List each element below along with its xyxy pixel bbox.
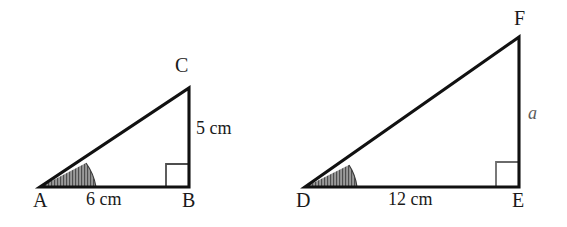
side-length-label-de: 12 cm	[388, 190, 433, 208]
vertex-label-a: A	[33, 190, 47, 210]
vertex-label-d: D	[296, 190, 310, 210]
side-length-label-ef: a	[528, 104, 537, 122]
vertex-label-c: C	[175, 55, 188, 75]
vertex-label-e: E	[512, 190, 524, 210]
triangle-abc	[40, 88, 189, 187]
vertex-label-b: B	[182, 190, 195, 210]
triangle-def	[305, 37, 519, 187]
right-angle-marker-e	[496, 162, 519, 187]
side-length-label-bc: 5 cm	[196, 119, 232, 137]
side-length-label-ab: 6 cm	[86, 190, 122, 208]
right-angle-marker-b	[166, 164, 189, 187]
geometry-figure: C A B 6 cm 5 cm F D E 12 cm a	[0, 0, 567, 227]
vertex-label-f: F	[514, 8, 525, 28]
triangle-def-outline	[305, 37, 519, 187]
